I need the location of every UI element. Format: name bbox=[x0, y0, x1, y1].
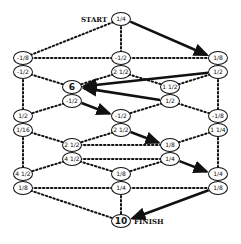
node-m3a: -1/2 bbox=[111, 109, 131, 123]
path-arrow bbox=[84, 73, 208, 86]
node-r3b: 1 1/4 bbox=[208, 123, 228, 137]
node-m1b: 2 1/2 bbox=[111, 65, 131, 79]
dotted-edge bbox=[23, 19, 121, 58]
dotted-edge bbox=[23, 188, 121, 221]
path-puzzle-diagram: 1/4-1/8-1/2-1/22 1/21/81/26-1/21 1/21/21… bbox=[0, 0, 241, 244]
node-r1a: 1/8 bbox=[208, 51, 228, 65]
node-m1a: -1/2 bbox=[111, 51, 131, 65]
node-l1b: -1/2 bbox=[13, 65, 33, 79]
node-r5b: 1/8 bbox=[208, 181, 228, 195]
path-arrow bbox=[84, 88, 160, 100]
node-l2b: -1/2 bbox=[62, 94, 82, 108]
node-r2b: 1/2 bbox=[160, 94, 180, 108]
path-arrow bbox=[180, 161, 207, 172]
node-r4a: 1/8 bbox=[160, 138, 180, 152]
path-arrow bbox=[132, 190, 208, 218]
node-finish: 10 bbox=[111, 214, 131, 228]
path-arrow bbox=[131, 132, 159, 143]
node-l4b: 4 1/2 bbox=[62, 152, 82, 166]
node-l5b: 1/8 bbox=[13, 181, 33, 195]
node-m3b: 2 1/2 bbox=[111, 123, 131, 137]
path-arrow bbox=[130, 22, 207, 55]
node-start: 1/4 bbox=[111, 12, 131, 26]
node-r2a: 1 1/2 bbox=[160, 80, 180, 94]
node-l1a: -1/8 bbox=[13, 51, 33, 65]
node-r1b: 1/2 bbox=[208, 65, 228, 79]
node-l2a: 6 bbox=[62, 80, 82, 94]
start-label: START bbox=[81, 15, 107, 24]
node-l5a: 4 1/2 bbox=[13, 167, 33, 181]
node-r3a: -1/8 bbox=[208, 109, 228, 123]
node-m5a: 1/8 bbox=[111, 167, 131, 181]
node-r5a: 1/4 bbox=[208, 167, 228, 181]
node-l3b: 1/16 bbox=[13, 123, 33, 137]
node-l3a: 1/2 bbox=[13, 109, 33, 123]
node-l4a: 2 1/2 bbox=[62, 138, 82, 152]
node-r4b: 1/4 bbox=[160, 152, 180, 166]
path-arrow bbox=[82, 103, 110, 114]
finish-label: FINISH bbox=[134, 217, 164, 226]
node-m5b: 1/4 bbox=[111, 181, 131, 195]
